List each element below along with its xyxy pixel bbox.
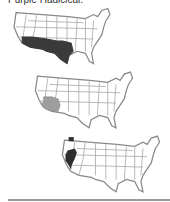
range-highlight (42, 97, 61, 111)
species-title: Purple Hadicicai. (8, 0, 83, 5)
range-map-3 (60, 134, 164, 196)
range-map-2 (33, 70, 137, 132)
divider-rule (8, 199, 170, 201)
range-spot (69, 137, 74, 141)
range-map-1 (12, 6, 114, 68)
